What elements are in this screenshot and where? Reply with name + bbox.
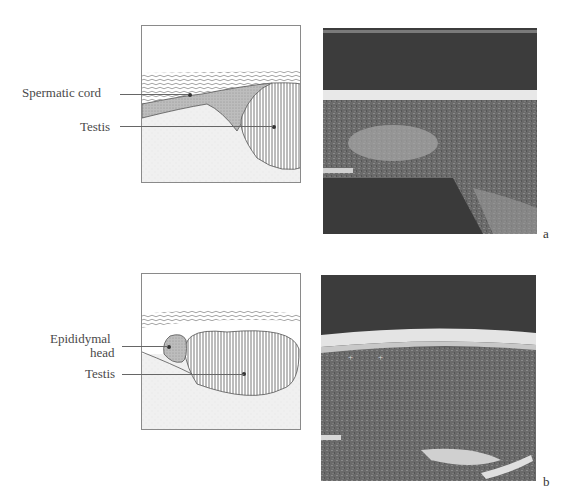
schematic-diagram-a — [141, 25, 301, 183]
svg-text:+: + — [378, 352, 383, 362]
svg-text:+: + — [348, 352, 353, 362]
label-epididymal-head-line1: Epididymal — [50, 332, 111, 346]
label-epididymal-head-line2: head — [90, 346, 115, 360]
label-testis-b: Testis — [85, 367, 115, 381]
schematic-diagram-b — [141, 273, 301, 430]
ultrasound-image-b: + + — [321, 275, 536, 481]
leader-line-epididymal-head — [122, 346, 168, 347]
label-spermatic-cord: Spermatic cord — [22, 86, 101, 100]
leader-line-testis-a — [120, 126, 273, 127]
epididymis-testis-schematic — [142, 274, 300, 429]
panel-letter-b: b — [543, 474, 550, 490]
panel-letter-a: a — [543, 226, 549, 242]
leader-line-spermatic-cord — [120, 94, 188, 95]
ultrasound-image-a — [323, 28, 537, 234]
label-testis-a: Testis — [80, 120, 110, 134]
spermatic-cord-testis-schematic — [142, 26, 300, 182]
leader-line-testis-b — [122, 374, 244, 375]
